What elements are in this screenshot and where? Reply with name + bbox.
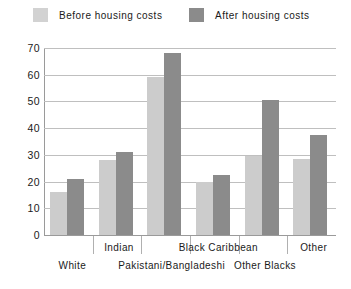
legend-label-after: After housing costs xyxy=(215,10,310,21)
bar-group xyxy=(141,48,190,235)
legend-swatch-icon-after xyxy=(189,8,204,22)
x-axis-tick xyxy=(141,236,142,254)
chart-legend: Before housing costs After housing costs xyxy=(0,8,351,34)
bar-after xyxy=(164,53,181,235)
x-category-label: Other xyxy=(300,242,327,253)
bar-group xyxy=(44,48,93,235)
y-tick-label-10: 10 xyxy=(10,202,40,214)
bar-before xyxy=(50,192,67,235)
bar-after xyxy=(67,179,84,235)
bar-group xyxy=(93,48,142,235)
y-tick-label-50: 50 xyxy=(10,95,40,107)
y-tick-label-60: 60 xyxy=(10,69,40,81)
y-tick-label-0: 0 xyxy=(10,229,40,241)
y-tick-label-20: 20 xyxy=(10,176,40,188)
bar-before xyxy=(99,160,116,235)
bar-group xyxy=(190,48,239,235)
x-category-label: Other Blacks xyxy=(234,260,296,271)
x-axis-tick xyxy=(93,236,94,254)
x-category-label: Indian xyxy=(104,242,134,253)
bar-after xyxy=(213,175,230,235)
x-category-label: Pakistani/Bangladeshi xyxy=(118,260,225,271)
x-category-label: White xyxy=(59,260,87,271)
x-category-label: Black Caribbean xyxy=(179,242,258,253)
bar-after xyxy=(262,100,279,235)
bar-group xyxy=(287,48,336,235)
bar-after xyxy=(116,152,133,235)
bar-groups xyxy=(44,48,336,235)
bar-chart: Before housing costs After housing costs… xyxy=(0,0,351,289)
bar-before xyxy=(196,182,213,235)
y-tick-label-70: 70 xyxy=(10,42,40,54)
plot-area xyxy=(44,48,336,235)
y-tick-label-40: 40 xyxy=(10,122,40,134)
bar-before xyxy=(293,159,310,235)
bar-after xyxy=(310,135,327,235)
legend-label-before: Before housing costs xyxy=(59,10,162,21)
legend-entry-after-housing-costs: After housing costs xyxy=(189,8,310,22)
bar-before xyxy=(245,156,262,235)
legend-swatch-icon-before xyxy=(33,8,48,22)
bar-before xyxy=(147,77,164,235)
bar-group xyxy=(239,48,288,235)
y-tick-label-30: 30 xyxy=(10,149,40,161)
x-axis-tick xyxy=(287,236,288,254)
legend-entry-before-housing-costs: Before housing costs xyxy=(33,8,162,22)
